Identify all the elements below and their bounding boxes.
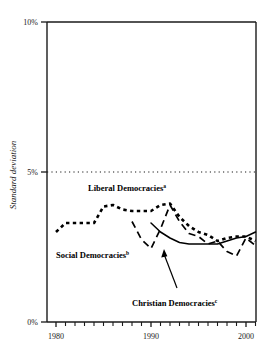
series-label-liberal-democracies: Liberal Democraciesa: [88, 183, 166, 193]
y-tick-label-0: 0%: [27, 318, 38, 327]
series-label-christian-text: Christian Democracies: [132, 298, 216, 308]
y-axis-title: Standard deviation: [8, 140, 18, 209]
series-label-social-superscript: b: [126, 250, 129, 256]
series-label-social-democracies: Social Democraciesb: [56, 250, 129, 260]
series-label-social-text: Social Democracies: [56, 250, 127, 260]
x-tick-label-2000: 2000: [238, 332, 254, 341]
standard-deviation-line-chart: 10% 5% 0% Standard deviation: [0, 0, 272, 352]
chart-container: 10% 5% 0% Standard deviation: [0, 0, 272, 352]
x-tick-label-1990: 1990: [143, 332, 159, 341]
y-tick-label-10: 10%: [23, 18, 38, 27]
series-label-liberal-superscript: a: [163, 183, 166, 189]
x-tick-label-1980: 1980: [48, 332, 64, 341]
series-label-christian-democracies: Christian Democraciesc: [132, 298, 218, 308]
y-tick-label-5: 5%: [27, 168, 38, 177]
series-label-liberal-text: Liberal Democracies: [88, 183, 164, 193]
